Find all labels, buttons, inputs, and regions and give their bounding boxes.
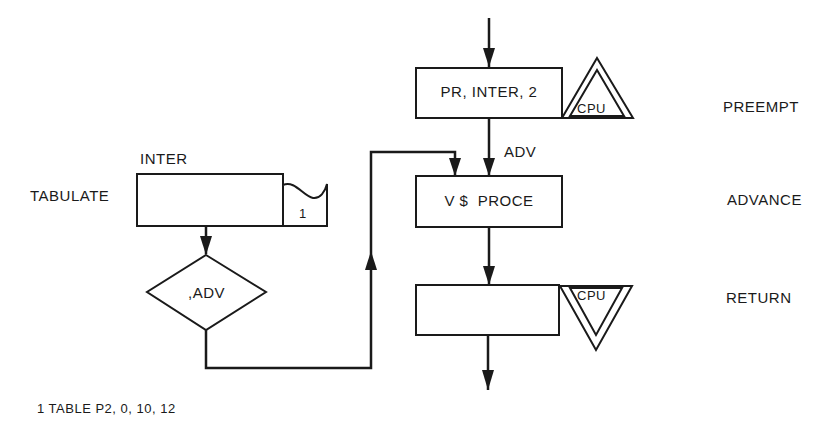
tabulate-to-transfer-arrow [200,226,212,255]
preempt-block-name: PREEMPT [723,98,799,115]
advance-operand: V $ PROCE [416,192,562,209]
transfer-operand: ,ADV [147,284,266,301]
advance-block-name: ADVANCE [727,191,802,208]
advance-to-return-arrow [483,227,495,285]
return-block [416,285,559,335]
return-facility-label: CPU [577,288,606,303]
preempt-operand: PR, INTER, 2 [416,83,562,100]
preempt-facility-label: CPU [577,101,606,116]
incoming-arrow [483,18,495,67]
return-block-name: RETURN [726,289,792,306]
gpss-block-diagram [0,0,840,423]
table-definition-footnote: 1 TABLE P2, 0, 10, 12 [37,401,176,416]
outgoing-arrow [482,335,494,390]
tabulate-block [137,174,283,226]
advance-entry-label: ADV [504,143,536,160]
tabulate-operand: INTER [140,150,188,167]
table-reference-number: 1 [299,206,307,221]
preempt-to-advance-arrow [483,118,495,176]
tabulate-block-name: TABULATE [30,187,109,204]
